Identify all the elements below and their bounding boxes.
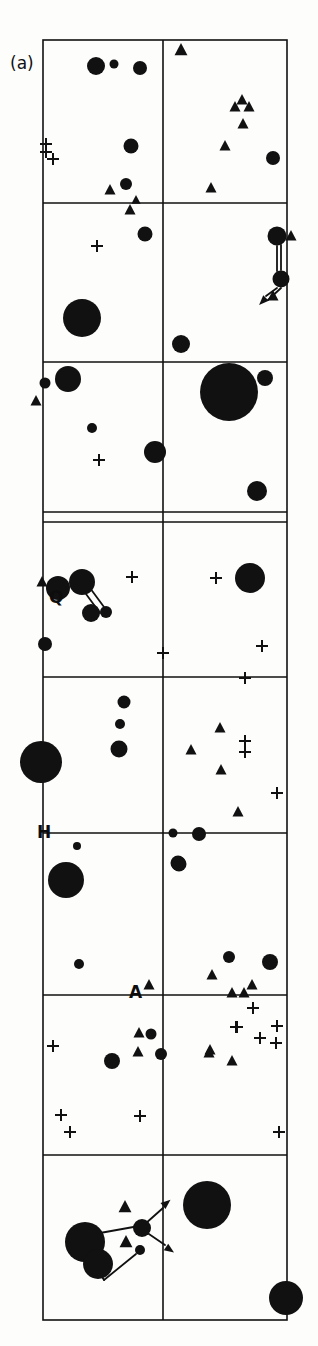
circle-marker-30 xyxy=(169,829,178,838)
triangle-marker-14 xyxy=(214,722,225,733)
triangle-marker-0 xyxy=(175,43,188,55)
plus-marker-9 xyxy=(239,672,251,684)
circle-marker-36 xyxy=(223,951,235,963)
plus-marker-15 xyxy=(254,1032,266,1044)
triangle-marker-26 xyxy=(132,1046,143,1057)
grid-layer xyxy=(43,40,287,1320)
plus-marker-16 xyxy=(47,1040,59,1052)
plus-marker-6 xyxy=(210,572,222,584)
circle-marker-3 xyxy=(124,139,139,154)
circle-marker-6 xyxy=(138,227,153,242)
horizon-label-q: Q xyxy=(49,587,63,607)
circle-marker-5 xyxy=(120,178,132,190)
circle-marker-27 xyxy=(20,741,62,783)
circle-marker-12 xyxy=(40,378,51,389)
triangle-marker-29 xyxy=(120,1235,133,1247)
plus-marker-10 xyxy=(239,735,251,747)
scatter-diagram xyxy=(0,0,318,1346)
triangle-marker-8 xyxy=(131,195,140,204)
circle-marker-18 xyxy=(69,569,95,595)
plus-marker-2 xyxy=(47,153,59,165)
plus-marker-11 xyxy=(239,746,251,758)
triangle-marker-18 xyxy=(206,969,217,980)
figure-panel: (a) Q H A xyxy=(0,0,318,1346)
marker-layer xyxy=(20,43,303,1315)
circle-marker-20 xyxy=(82,604,100,622)
figure-frame xyxy=(43,40,287,1320)
arrowhead-1 xyxy=(164,1244,176,1256)
triangle-marker-27 xyxy=(204,1044,215,1055)
plus-marker-1 xyxy=(40,146,52,158)
triangle-marker-25 xyxy=(226,1055,237,1066)
circle-marker-45 xyxy=(269,1281,303,1315)
panel-label: (a) xyxy=(10,53,34,73)
plus-marker-21 xyxy=(134,1110,146,1122)
triangle-marker-20 xyxy=(246,979,257,990)
plus-marker-20 xyxy=(64,1126,76,1138)
plus-marker-12 xyxy=(271,787,283,799)
circle-marker-38 xyxy=(104,1053,120,1069)
circle-marker-9 xyxy=(63,299,101,337)
plus-marker-7 xyxy=(157,647,169,659)
circle-marker-24 xyxy=(118,696,131,709)
plus-marker-13 xyxy=(247,1002,259,1014)
circle-marker-31 xyxy=(192,827,206,841)
triangle-marker-21 xyxy=(226,987,237,998)
triangle-marker-17 xyxy=(232,806,243,817)
plus-marker-19 xyxy=(55,1109,67,1121)
circle-marker-42 xyxy=(135,1245,145,1255)
plus-marker-23 xyxy=(270,1037,282,1049)
triangle-marker-9 xyxy=(124,204,135,215)
circle-marker-15 xyxy=(200,363,258,421)
triangle-marker-5 xyxy=(219,140,230,151)
circle-marker-14 xyxy=(144,441,166,463)
circle-marker-10 xyxy=(172,335,190,353)
horizon-label-h: H xyxy=(37,822,51,842)
triangle-marker-15 xyxy=(185,744,196,755)
circle-marker-25 xyxy=(115,719,125,729)
circle-marker-8 xyxy=(273,271,290,288)
circle-marker-23 xyxy=(235,563,265,593)
connector-line-8 xyxy=(146,1232,165,1245)
circle-marker-4 xyxy=(266,151,280,165)
plus-marker-18 xyxy=(231,1021,243,1033)
plus-marker-3 xyxy=(91,240,103,252)
circle-marker-11 xyxy=(55,366,81,392)
circle-marker-43 xyxy=(133,1219,151,1237)
circle-marker-26 xyxy=(111,741,128,758)
circle-marker-21 xyxy=(100,606,112,618)
circle-marker-2 xyxy=(133,61,147,75)
triangle-marker-6 xyxy=(205,182,216,193)
circle-marker-0 xyxy=(87,57,105,75)
circle-marker-28 xyxy=(73,842,81,850)
circle-marker-22 xyxy=(38,637,52,651)
circle-marker-1 xyxy=(110,60,119,69)
circle-marker-33 xyxy=(172,857,187,872)
triangle-marker-28 xyxy=(119,1200,132,1212)
triangle-marker-23 xyxy=(133,1027,144,1038)
circle-marker-39 xyxy=(155,1048,167,1060)
circle-marker-35 xyxy=(262,954,278,970)
plus-marker-4 xyxy=(93,454,105,466)
plus-marker-5 xyxy=(126,571,138,583)
plus-marker-17 xyxy=(271,1020,283,1032)
triangle-marker-13 xyxy=(36,576,47,587)
circle-marker-34 xyxy=(74,959,84,969)
circle-marker-41 xyxy=(83,1249,113,1279)
triangle-marker-7 xyxy=(104,184,115,195)
circle-marker-16 xyxy=(257,370,273,386)
triangle-marker-4 xyxy=(237,118,248,129)
circle-marker-29 xyxy=(48,862,84,898)
triangle-marker-16 xyxy=(215,764,226,775)
circle-marker-7 xyxy=(268,227,287,246)
triangle-marker-19 xyxy=(143,979,154,990)
circle-marker-37 xyxy=(146,1029,157,1040)
circle-marker-17 xyxy=(247,481,267,501)
plus-marker-8 xyxy=(256,640,268,652)
circle-marker-13 xyxy=(87,423,97,433)
horizon-label-a: A xyxy=(129,982,142,1002)
arrowhead-2 xyxy=(256,295,268,307)
circle-marker-44 xyxy=(183,1181,231,1229)
triangle-marker-12 xyxy=(30,395,41,406)
triangle-marker-1 xyxy=(236,94,247,105)
